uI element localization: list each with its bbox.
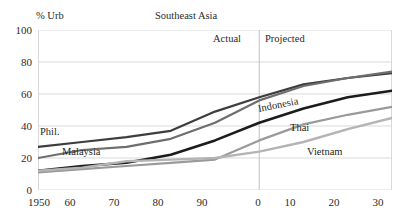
x-tick-1970: 70 bbox=[101, 196, 127, 208]
y-tick-0: 0 bbox=[6, 184, 32, 196]
chart-title: Southeast Asia bbox=[155, 10, 217, 21]
x-tick-1960: 60 bbox=[57, 196, 83, 208]
x-tick-1990: 90 bbox=[189, 196, 215, 208]
plot-area bbox=[38, 30, 392, 190]
series-label-vietnam: Vietnam bbox=[307, 146, 343, 157]
x-tick-2010: 10 bbox=[277, 196, 303, 208]
x-tick-2020: 20 bbox=[321, 196, 347, 208]
x-tick-1950: 1950 bbox=[18, 196, 60, 208]
x-tick-1980: 80 bbox=[145, 196, 171, 208]
series-label-malaysia: Malaysia bbox=[62, 146, 101, 157]
y-axis-title: % Urb bbox=[36, 10, 64, 21]
y-tick-60: 60 bbox=[6, 88, 32, 100]
chart-svg bbox=[38, 30, 392, 190]
series-label-thailand: Thai bbox=[290, 122, 309, 133]
series-label-philippines: Phil. bbox=[40, 126, 60, 137]
x-tick-2030: 30 bbox=[365, 196, 391, 208]
y-tick-80: 80 bbox=[6, 56, 32, 68]
x-tick-2000: 0 bbox=[245, 196, 271, 208]
y-tick-20: 20 bbox=[6, 152, 32, 164]
series-line-philippines bbox=[38, 73, 392, 147]
y-tick-100: 100 bbox=[6, 24, 32, 36]
y-tick-40: 40 bbox=[6, 120, 32, 132]
chart-container: % Urb Southeast Asia Actual Projected 10… bbox=[0, 0, 416, 218]
